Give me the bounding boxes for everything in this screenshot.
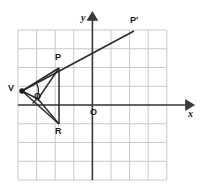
point-label-p: P: [55, 53, 61, 62]
point-label-p-prime: P': [130, 16, 138, 25]
geometry-figure: V P R Q P' O y x: [0, 0, 201, 190]
point-label-r: R: [55, 127, 62, 136]
y-axis-label: y: [81, 13, 85, 23]
segment-q-r: [38, 99, 59, 124]
point-label-v: V: [8, 84, 14, 93]
x-axis-label: x: [188, 109, 193, 119]
ray-v-pprime: [22, 31, 134, 91]
vertex-dot-v: [19, 88, 24, 93]
segment-v-p: [22, 68, 59, 91]
origin-label: O: [90, 108, 97, 117]
point-label-q: Q: [34, 92, 41, 101]
y-axis-arrowhead: [88, 13, 97, 21]
segment-q-p: [38, 68, 59, 99]
figure-canvas: [0, 0, 201, 190]
